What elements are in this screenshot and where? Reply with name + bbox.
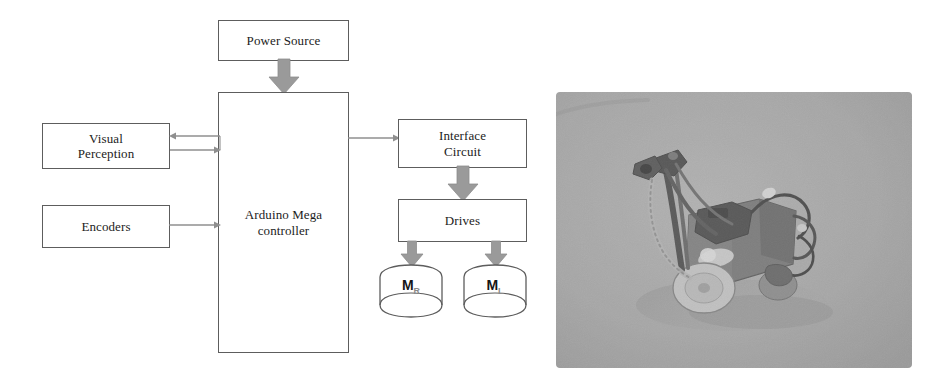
block-power-source: Power Source [218,20,349,61]
block-encoders-label: Encoders [77,219,134,234]
arrow-controller-to-interface-circuit [347,132,401,144]
block-drives-label: Drives [441,213,484,228]
cylinder-motor-right: MR [378,263,444,319]
robot-prototype-photo [556,92,912,368]
block-arduino-mega-controller: Arduino Mega controller [218,92,349,353]
cylinder-motor-right-label: MR [378,277,444,296]
cylinder-motor-left-label: ML [462,277,528,296]
motor-left-subscript: L [498,286,504,296]
arrow-controller-to-visual-perception [168,128,222,158]
cylinder-motor-left: ML [462,263,528,319]
block-interface-circuit-label-line2: Circuit [444,144,481,159]
motor-right-subscript: R [414,286,421,296]
block-controller-label-line2: controller [258,223,310,238]
robot-photo-graphic [556,92,912,368]
block-visual-perception-label: Visual Perception [74,131,139,162]
figure-root: Power Source Arduino Mega controller Vis… [0,0,942,379]
block-interface-circuit: Interface Circuit [398,119,527,168]
block-encoders: Encoders [42,205,170,248]
block-interface-circuit-label: Interface Circuit [435,128,490,159]
block-visual-perception-label-line2: Perception [78,146,135,161]
block-interface-circuit-label-line1: Interface [439,128,486,143]
block-drives: Drives [398,199,527,242]
motor-left-base: M [486,277,498,293]
block-controller-label-line1: Arduino Mega [245,207,322,222]
arrow-power-to-controller [268,59,300,95]
arrow-interface-circuit-to-drives [447,166,479,202]
block-controller-label: Arduino Mega controller [241,207,326,238]
motor-right-base: M [402,277,414,293]
arrow-encoders-to-controller [168,219,222,231]
block-visual-perception: Visual Perception [42,123,170,169]
block-power-source-label: Power Source [243,33,325,48]
block-visual-perception-label-line1: Visual [89,131,123,146]
